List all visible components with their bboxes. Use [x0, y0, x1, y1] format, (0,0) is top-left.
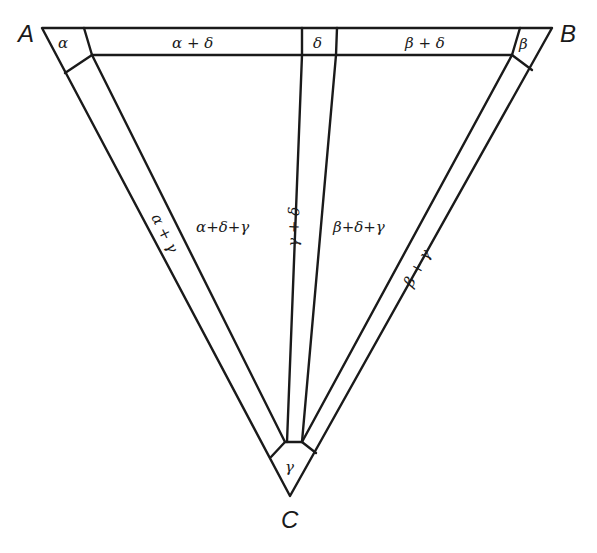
top-band-center-label: δ	[313, 34, 322, 52]
left-strip-inner-edge	[92, 55, 285, 442]
gamma-cell-label: γ	[285, 458, 294, 476]
delta-cell-right-divider	[336, 28, 337, 55]
triangle-diagram: A B C α β γ α + δ δ β + δ α + γ γ + δ β …	[0, 0, 597, 553]
center-strip-right-edge	[302, 55, 336, 442]
outer-triangle	[42, 28, 552, 496]
center-strip-left-edge	[287, 55, 302, 442]
center-strip-label: γ + δ	[284, 206, 303, 247]
alpha-cell-divider-side	[65, 55, 92, 73]
vertex-label-b: B	[560, 20, 576, 47]
right-strip-inner-edge	[302, 55, 512, 442]
right-region-label: β+δ+γ	[332, 218, 385, 236]
alpha-cell-divider-top	[84, 28, 92, 55]
left-region-label: α+δ+γ	[196, 218, 249, 236]
alpha-cell-label: α	[58, 34, 68, 52]
top-band-right-label: β + δ	[404, 34, 445, 52]
beta-cell-divider-side	[512, 55, 532, 70]
vertex-label-a: A	[16, 20, 34, 47]
beta-cell-label: β	[518, 35, 528, 53]
top-band-left-label: α + δ	[172, 34, 213, 52]
vertex-label-c: C	[281, 506, 299, 533]
left-strip-label: α + γ	[147, 211, 182, 256]
gamma-cell-boundary	[271, 442, 316, 457]
